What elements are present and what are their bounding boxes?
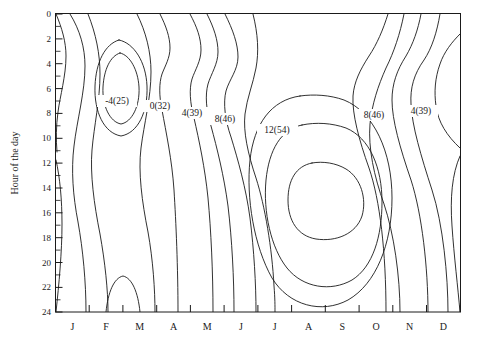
x-tick-label: A xyxy=(305,321,313,332)
x-tick-label: M xyxy=(203,321,212,332)
contour-line xyxy=(245,14,275,312)
x-tick-label: J xyxy=(70,321,74,332)
contour-label-text: -4(25) xyxy=(105,96,129,107)
y-tick-label: 16 xyxy=(42,208,52,218)
y-tick-label: 6 xyxy=(47,84,52,94)
y-tick-label: 18 xyxy=(42,233,52,243)
x-tick-label: N xyxy=(406,321,413,332)
contour-line xyxy=(288,162,364,239)
contour-label: -4(25) xyxy=(97,95,137,107)
contour-line xyxy=(353,14,388,312)
contour-line xyxy=(56,160,62,312)
x-tick-label: A xyxy=(170,321,178,332)
contour-line xyxy=(88,14,108,312)
y-axis-tick-labels: 0 2 4 6 8 10 12 14 16 18 20 22 24 xyxy=(42,9,52,317)
contour-line xyxy=(103,53,139,124)
x-tick-label: O xyxy=(372,321,379,332)
x-tick-label: F xyxy=(103,321,109,332)
contour-label: 8(46) xyxy=(208,113,242,125)
contour-label-text: 4(39) xyxy=(182,108,203,119)
contour-line xyxy=(451,156,460,312)
contour-figure: 0 2 4 6 8 10 12 14 16 18 20 22 24 Hour o… xyxy=(0,0,481,345)
contour-labels-group: -4(25) 0(32) 4(39) 8(46) 12(54) 8(46) xyxy=(97,95,438,136)
y-tick-label: 2 xyxy=(47,34,52,44)
x-tick-label: S xyxy=(339,321,345,332)
y-axis-major-ticks xyxy=(56,14,63,312)
contour-label: 12(54) xyxy=(257,124,298,136)
x-tick-label: J xyxy=(273,321,277,332)
x-tick-label: D xyxy=(440,321,447,332)
x-tick-label: M xyxy=(135,321,144,332)
contour-label-text: 8(46) xyxy=(364,110,385,121)
contour-line xyxy=(435,34,460,148)
y-tick-label: 4 xyxy=(47,59,52,69)
contour-line xyxy=(160,14,178,312)
contour-label-text: 12(54) xyxy=(264,125,289,136)
contour-plot-svg: 0 2 4 6 8 10 12 14 16 18 20 22 24 Hour o… xyxy=(0,0,481,345)
x-axis-month-labels: J F M A M J J A S O N D xyxy=(70,321,447,332)
contour-label-text: 0(32) xyxy=(150,101,171,112)
y-axis-title: Hour of the day xyxy=(9,131,20,194)
y-tick-label: 8 xyxy=(47,108,52,118)
y-tick-label: 10 xyxy=(42,133,52,143)
contour-label: 8(46) xyxy=(357,109,391,121)
contour-line xyxy=(56,14,66,152)
contour-label-text: 8(46) xyxy=(215,114,236,125)
contour-lines-group xyxy=(56,14,460,312)
y-tick-label: 24 xyxy=(42,307,52,317)
contour-line xyxy=(206,14,234,312)
contour-line xyxy=(137,14,155,312)
y-tick-label: 0 xyxy=(47,9,52,19)
plot-frame xyxy=(56,14,461,313)
y-tick-label: 12 xyxy=(42,158,51,168)
y-tick-label: 14 xyxy=(42,183,52,193)
contour-line xyxy=(265,123,382,286)
contour-line xyxy=(190,14,213,312)
contour-label-text: 4(39) xyxy=(411,106,432,117)
contour-label: 0(32) xyxy=(143,100,177,112)
contour-line xyxy=(370,14,404,312)
y-tick-label: 22 xyxy=(42,282,51,292)
x-tick-label: J xyxy=(239,321,243,332)
contour-line xyxy=(70,14,86,312)
contour-label: 4(39) xyxy=(175,107,209,119)
contour-label: 4(39) xyxy=(404,105,438,117)
y-tick-label: 20 xyxy=(42,258,52,268)
